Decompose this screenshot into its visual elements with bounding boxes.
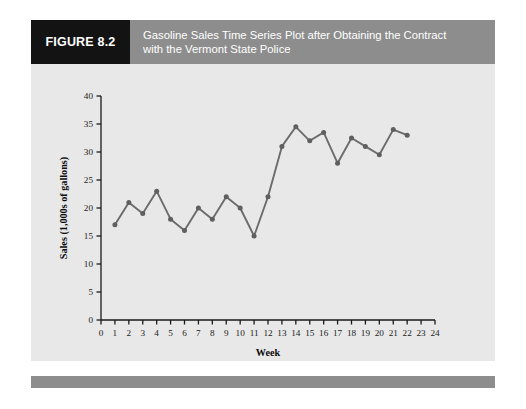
data-point-marker — [321, 130, 326, 135]
y-tick-label: 35 — [84, 119, 94, 129]
x-tick-label: 1 — [113, 328, 118, 338]
x-tick-label: 16 — [319, 328, 329, 338]
y-tick-label: 25 — [84, 175, 94, 185]
x-tick-label: 24 — [430, 328, 440, 338]
y-tick-label: 15 — [84, 231, 94, 241]
data-point-marker — [349, 136, 354, 141]
y-tick-label: 40 — [84, 91, 94, 101]
y-axis: 0510152025303540 — [84, 91, 101, 325]
x-tick-label: 12 — [263, 328, 273, 338]
figure-title-box: Gasoline Sales Time Series Plot after Ob… — [130, 20, 495, 64]
figure-title-text: Gasoline Sales Time Series Plot after Ob… — [143, 28, 446, 57]
y-tick-label: 10 — [84, 259, 94, 269]
data-series-gasoline-sales — [112, 124, 409, 238]
data-point-marker — [279, 144, 284, 149]
x-tick-label: 18 — [347, 328, 357, 338]
y-tick-label: 20 — [84, 203, 94, 213]
data-point-marker — [196, 206, 201, 211]
x-tick-label: 20 — [375, 328, 385, 338]
plot-panel: 0510152025303540 01234567891011121314151… — [31, 64, 495, 361]
x-tick-label: 10 — [236, 328, 246, 338]
data-point-marker — [140, 211, 145, 216]
data-point-marker — [210, 217, 215, 222]
data-point-marker — [405, 133, 410, 138]
data-point-marker — [293, 124, 298, 129]
x-tick-label: 14 — [291, 328, 301, 338]
x-tick-label: 19 — [361, 328, 371, 338]
figure-container: FIGURE 8.2 Gasoline Sales Time Series Pl… — [0, 0, 526, 409]
data-point-marker — [126, 200, 131, 205]
figure-number-box: FIGURE 8.2 — [31, 20, 130, 64]
data-point-marker — [391, 127, 396, 132]
y-tick-label: 5 — [88, 287, 93, 297]
x-tick-label: 6 — [182, 328, 187, 338]
y-axis-title: Sales (1,000s of gallons) — [58, 157, 70, 259]
data-point-marker — [266, 194, 271, 199]
figure-title-line-1: Gasoline Sales Time Series Plot after Ob… — [143, 29, 446, 41]
x-tick-label: 4 — [154, 328, 159, 338]
series-line — [115, 127, 407, 236]
figure-footer-bar — [31, 376, 495, 388]
line-chart: 0510152025303540 01234567891011121314151… — [31, 64, 495, 361]
data-point-marker — [363, 144, 368, 149]
data-point-marker — [224, 194, 229, 199]
data-point-marker — [238, 206, 243, 211]
data-point-marker — [182, 228, 187, 233]
figure-header: FIGURE 8.2 Gasoline Sales Time Series Pl… — [31, 20, 495, 64]
x-tick-label: 7 — [196, 328, 201, 338]
x-tick-label: 2 — [127, 328, 132, 338]
x-tick-label: 3 — [140, 328, 145, 338]
x-tick-label: 9 — [224, 328, 229, 338]
x-tick-label: 23 — [416, 328, 426, 338]
data-point-marker — [154, 189, 159, 194]
x-tick-label: 21 — [389, 328, 399, 338]
x-axis: 0123456789101112131415161718192021222324 — [99, 320, 440, 338]
y-tick-label: 0 — [88, 315, 93, 325]
data-point-marker — [377, 152, 382, 157]
x-tick-label: 0 — [99, 328, 104, 338]
x-axis-title: Week — [256, 347, 281, 358]
figure-number-label: FIGURE 8.2 — [45, 35, 115, 49]
x-tick-label: 22 — [403, 328, 413, 338]
figure-title-line-2: with the Vermont State Police — [143, 43, 291, 55]
x-tick-label: 5 — [168, 328, 173, 338]
x-tick-label: 13 — [277, 328, 287, 338]
data-point-marker — [112, 222, 117, 227]
data-point-marker — [168, 217, 173, 222]
y-tick-label: 30 — [84, 147, 94, 157]
data-point-marker — [252, 234, 257, 239]
x-tick-label: 15 — [305, 328, 315, 338]
x-tick-label: 17 — [333, 328, 343, 338]
x-tick-label: 8 — [210, 328, 215, 338]
data-point-marker — [335, 161, 340, 166]
data-point-marker — [307, 138, 312, 143]
x-tick-label: 11 — [250, 328, 259, 338]
